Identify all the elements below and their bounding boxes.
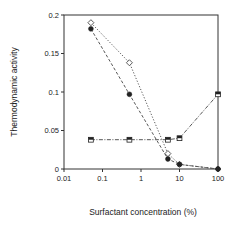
plot-frame: [64, 15, 218, 169]
x-tick-label: 100: [212, 174, 225, 183]
x-axis-ticks: 0.010.1110100: [57, 169, 225, 183]
y-tick-label: 0: [55, 165, 59, 174]
y-tick-label: 0.1: [49, 88, 59, 97]
series-layer: [88, 20, 221, 172]
circle-marker: [177, 162, 182, 167]
circle-marker: [216, 167, 221, 172]
diamond-marker: [88, 20, 94, 26]
series-open-diamond: [88, 20, 221, 172]
series-line: [91, 94, 218, 139]
square-marker-fill: [216, 92, 221, 94]
y-axis-title: Thermodynamic activity: [9, 47, 19, 137]
series-filled-circle: [89, 26, 221, 171]
x-tick-label: 0.01: [57, 174, 72, 183]
x-tick-label: 0.1: [97, 174, 107, 183]
x-tick-label: 1: [139, 174, 143, 183]
x-tick-label: 10: [175, 174, 183, 183]
chart: 00.050.10.150.2 0.010.1110100 Thermodyna…: [0, 0, 236, 226]
square-marker-fill: [89, 137, 94, 139]
series-line: [91, 23, 218, 169]
y-tick-label: 0.15: [44, 49, 59, 58]
square-marker-fill: [166, 137, 171, 139]
diamond-marker: [126, 60, 132, 66]
square-marker-fill: [127, 137, 132, 139]
plot-area-border: [64, 15, 218, 169]
circle-marker: [89, 26, 94, 31]
square-marker-fill: [177, 136, 182, 138]
y-tick-label: 0.2: [49, 11, 59, 20]
y-tick-label: 0.05: [44, 126, 59, 135]
circle-marker: [166, 157, 171, 162]
series-line: [91, 29, 218, 169]
series-half-filled-square: [89, 92, 221, 142]
circle-marker: [127, 92, 132, 97]
x-axis-title: Surfactant concentration (%): [89, 207, 197, 217]
y-axis-ticks: 00.050.10.150.2: [44, 11, 64, 174]
